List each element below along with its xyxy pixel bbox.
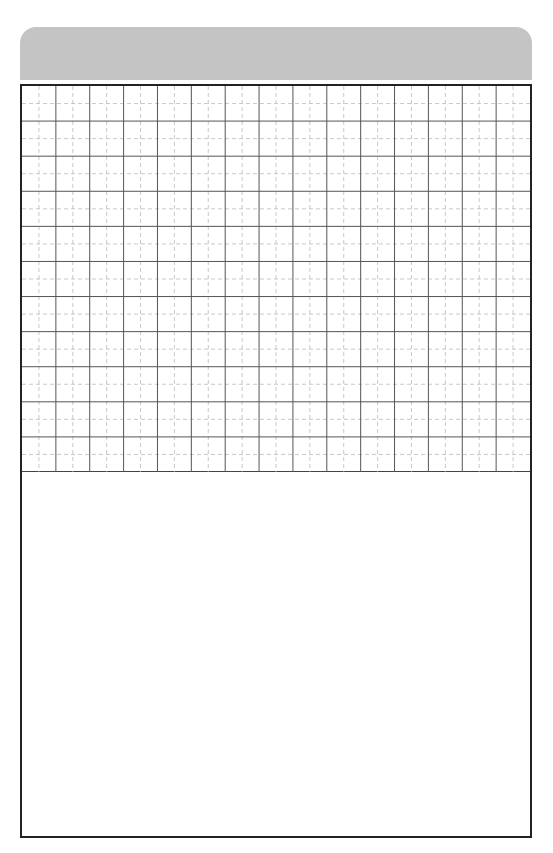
header-band <box>20 27 532 80</box>
practice-grid <box>22 86 530 472</box>
grid-lines <box>22 86 530 472</box>
blank-writing-area[interactable] <box>22 472 530 836</box>
worksheet <box>20 84 532 838</box>
